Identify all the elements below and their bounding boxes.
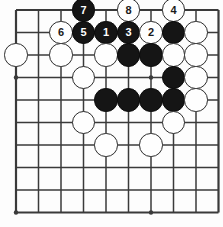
white-stone xyxy=(162,43,185,66)
stone-move-number: 2 xyxy=(148,26,154,37)
white-stone xyxy=(72,66,95,89)
stone-move-number: 6 xyxy=(58,26,64,37)
white-stone xyxy=(94,133,117,156)
black-stone xyxy=(139,88,162,111)
white-stone xyxy=(4,43,27,66)
stone-move-number: 5 xyxy=(81,26,87,37)
stone-move-number: 3 xyxy=(126,26,132,37)
move-stone-2: 2 xyxy=(139,21,162,44)
move-stone-8: 8 xyxy=(117,0,140,22)
move-stone-6: 6 xyxy=(49,21,72,44)
white-stone xyxy=(184,88,207,111)
black-stone xyxy=(139,43,162,66)
move-stone-7: 7 xyxy=(72,0,95,22)
white-stone xyxy=(72,111,95,134)
white-stone xyxy=(94,43,117,66)
white-stone xyxy=(184,66,207,89)
move-stone-4: 4 xyxy=(162,0,185,22)
move-stone-5: 5 xyxy=(72,21,95,44)
black-stone xyxy=(162,88,185,111)
move-stone-1: 1 xyxy=(94,21,117,44)
board-stones: 78465132 xyxy=(0,0,223,227)
black-stone xyxy=(162,21,185,44)
white-stone xyxy=(162,111,185,134)
white-stone xyxy=(184,43,207,66)
black-stone xyxy=(162,66,185,89)
move-stone-3: 3 xyxy=(117,21,140,44)
black-stone xyxy=(94,88,117,111)
stone-move-number: 4 xyxy=(171,4,177,15)
go-board-diagram: 78465132 xyxy=(0,0,223,227)
white-stone xyxy=(139,133,162,156)
stone-move-number: 1 xyxy=(103,26,109,37)
white-stone xyxy=(184,21,207,44)
black-stone xyxy=(117,88,140,111)
stone-move-number: 7 xyxy=(81,4,87,15)
white-stone xyxy=(49,43,72,66)
black-stone xyxy=(117,43,140,66)
stone-move-number: 8 xyxy=(126,4,132,15)
